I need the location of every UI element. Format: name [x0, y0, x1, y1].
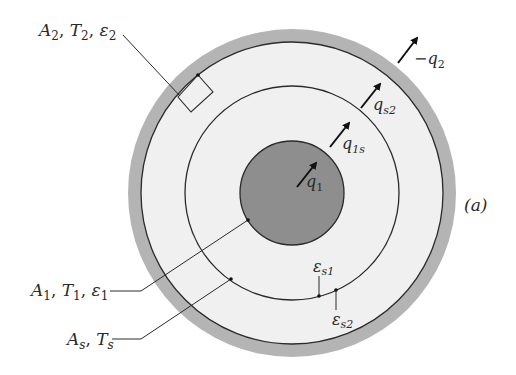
label-shield: As, Ts	[65, 329, 114, 352]
radiation-shield-diagram: A2, T2, ε2 A1, T1, ε1 As, Ts εs1 εs2 q1 …	[0, 0, 516, 375]
label-inner: A1, T1, ε1	[29, 280, 108, 303]
leader-outer	[123, 35, 180, 96]
label-outer: A2, T2, ε2	[37, 20, 116, 43]
inner-body	[240, 141, 344, 245]
panel-label: (a)	[464, 195, 487, 215]
label-minus-q2: −q2	[414, 49, 445, 71]
